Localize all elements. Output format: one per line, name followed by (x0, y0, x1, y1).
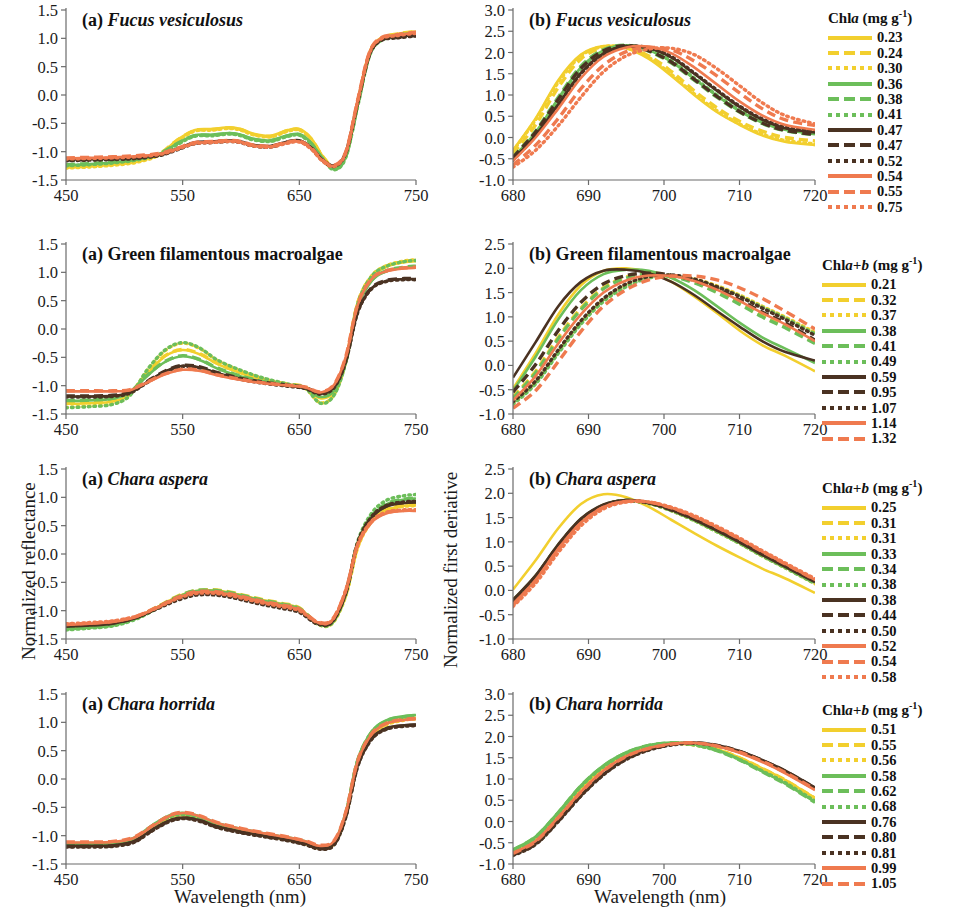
series-line (66, 260, 416, 402)
legend-item[interactable]: 0.25 (822, 500, 922, 515)
legend-item[interactable]: 0.50 (822, 623, 922, 638)
series-line (513, 743, 815, 854)
legend-swatch-dotted (828, 200, 872, 214)
axes: 6806907007107203.02.52.01.51.00.50.0-0.5… (479, 685, 828, 889)
panel-title: (a) Fucus vesiculosus (82, 10, 243, 31)
legend-item[interactable]: 0.80 (822, 830, 922, 845)
legend-item[interactable]: 0.47 (828, 138, 912, 153)
legend-item[interactable]: 0.30 (828, 61, 912, 76)
legend-item[interactable]: 0.47 (828, 122, 912, 137)
legend-item[interactable]: 0.23 (828, 30, 912, 45)
legend-item[interactable]: 0.41 (828, 107, 912, 122)
x-tick-label: 710 (727, 186, 752, 205)
y-tick-label: 0.0 (484, 581, 505, 600)
series-line (66, 32, 416, 166)
legend-value: 0.31 (871, 516, 896, 531)
legend-item[interactable]: 0.31 (822, 515, 922, 530)
x-tick-label: 710 (727, 420, 752, 439)
legend-swatch-dotted (822, 624, 866, 638)
legend-swatch-dotted (828, 108, 872, 122)
legend-value: 0.24 (877, 46, 902, 61)
legend-item[interactable]: 0.41 (822, 339, 922, 354)
legend-item[interactable]: 0.36 (828, 76, 912, 91)
legend-value: 0.34 (871, 562, 896, 577)
legend-item[interactable]: 1.32 (822, 431, 922, 446)
legend-item[interactable]: 1.07 (822, 400, 922, 415)
legend-item[interactable]: 0.34 (822, 562, 922, 577)
legend-item[interactable]: 0.37 (822, 308, 922, 323)
legend-item[interactable]: 0.38 (822, 577, 922, 592)
legend-item[interactable]: 0.52 (828, 153, 912, 168)
legend-swatch-dashed (822, 516, 866, 530)
legend-item[interactable]: 0.95 (822, 385, 922, 400)
y-tick-label: -0.5 (32, 114, 58, 133)
legend-swatch-dashed (828, 138, 872, 152)
legend-item[interactable]: 0.52 (822, 639, 922, 654)
legend-item[interactable]: 0.55 (822, 737, 922, 752)
panel-title: (a) Chara horrida (82, 694, 215, 715)
legend-item[interactable]: 0.31 (822, 531, 922, 546)
legend-item[interactable]: 0.54 (822, 654, 922, 669)
chart-panel-2: 6806907007107203.02.52.01.51.00.50.0-0.5… (455, 2, 825, 214)
legend-item[interactable]: 0.24 (828, 45, 912, 60)
legend-item[interactable]: 0.56 (822, 753, 922, 768)
legend-item[interactable]: 1.14 (822, 416, 922, 431)
legend-item[interactable]: 0.62 (822, 784, 922, 799)
legend-item[interactable]: 0.55 (828, 184, 912, 199)
chart-panel-8: 6806907007107203.02.52.01.51.00.50.0-0.5… (455, 686, 825, 898)
y-tick-label: -1.5 (32, 630, 58, 649)
legend-item[interactable]: 0.38 (822, 592, 922, 607)
legend-item[interactable]: 0.38 (828, 92, 912, 107)
legend-item[interactable]: 0.59 (822, 369, 922, 384)
legend-item[interactable]: 0.58 (822, 768, 922, 783)
legend-title: Chla (mg g-1) (828, 8, 912, 27)
y-tick-label: 0.5 (37, 517, 58, 536)
legend-item[interactable]: 0.51 (822, 722, 922, 737)
series-line (513, 273, 815, 397)
y-tick-label: 1.0 (37, 263, 58, 282)
legend-value: 1.07 (871, 401, 896, 416)
legend-value: 0.38 (871, 324, 896, 339)
legend-item[interactable]: 0.32 (822, 292, 922, 307)
axes: 6806907007107202.52.01.51.00.50.0-0.5-1.… (479, 235, 828, 439)
series-line (513, 743, 815, 851)
legend-swatch-dashed (822, 293, 866, 307)
series-group (513, 742, 815, 855)
series-line (66, 260, 416, 407)
y-tick-label: 0.5 (484, 107, 505, 126)
legend-item[interactable]: 0.44 (822, 608, 922, 623)
legend-item[interactable]: 0.76 (822, 814, 922, 829)
series-line (66, 33, 416, 170)
legend-item[interactable]: 0.33 (822, 546, 922, 561)
series-line (66, 501, 416, 625)
legend-item[interactable]: 0.54 (828, 169, 912, 184)
series-line (66, 36, 416, 167)
legend-swatch-dotted (822, 846, 866, 860)
legend-item[interactable]: 0.68 (822, 799, 922, 814)
series-line (513, 743, 815, 855)
series-line (66, 718, 416, 845)
legend-swatch-dotted (822, 670, 866, 684)
legend-item[interactable]: 0.99 (822, 861, 922, 876)
series-group (66, 715, 416, 849)
legend-item[interactable]: 0.38 (822, 323, 922, 338)
y-tick-label: 2.5 (484, 235, 505, 254)
series-line (513, 743, 815, 850)
legend-item[interactable]: 0.81 (822, 845, 922, 860)
legend-item[interactable]: 0.21 (822, 277, 922, 292)
series-group (66, 260, 416, 408)
y-tick-label: 1.0 (37, 713, 58, 732)
legend-item[interactable]: 1.05 (822, 876, 922, 891)
y-tick-label: 0.0 (37, 545, 58, 564)
series-group (66, 495, 416, 630)
series-line (66, 495, 416, 630)
legend-swatch-dashed (828, 185, 872, 199)
y-tick-label: 0.5 (37, 742, 58, 761)
legend-value: 0.31 (871, 531, 896, 546)
series-group (513, 494, 815, 607)
legend-item[interactable]: 0.58 (822, 669, 922, 684)
series-line (513, 743, 815, 851)
series-line (66, 33, 416, 167)
legend-item[interactable]: 0.75 (828, 199, 912, 214)
legend-item[interactable]: 0.49 (822, 354, 922, 369)
